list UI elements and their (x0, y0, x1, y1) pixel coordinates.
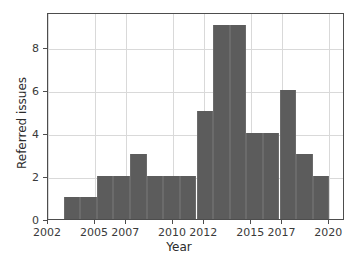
y-tick-label: 8 (17, 41, 39, 54)
x-tick-label: 2012 (189, 226, 217, 239)
gridline-x-2002 (48, 14, 49, 219)
histogram-bar (163, 176, 180, 219)
gridline-y-4 (48, 135, 343, 136)
x-tick-mark (250, 220, 251, 224)
histogram-bar (113, 176, 130, 219)
x-tick-label: 2005 (80, 226, 108, 239)
histogram-bar (313, 176, 330, 219)
x-tick-mark (328, 220, 329, 224)
histogram-bar (280, 90, 297, 219)
histogram-bar (64, 197, 81, 219)
histogram-bar (296, 154, 313, 219)
gridline-y-8 (48, 49, 343, 50)
histogram-bar (213, 25, 230, 219)
x-tick-mark (203, 220, 204, 224)
gridline-x-2020 (329, 14, 330, 219)
y-tick-label: 0 (17, 214, 39, 227)
histogram-bar (180, 176, 197, 219)
x-tick-label: 2010 (158, 226, 186, 239)
y-tick-mark (43, 48, 47, 49)
histogram-bar (80, 197, 97, 219)
x-tick-mark (94, 220, 95, 224)
y-tick-mark (43, 134, 47, 135)
x-tick-label: 2017 (267, 226, 295, 239)
x-tick-mark (125, 220, 126, 224)
x-tick-mark (281, 220, 282, 224)
histogram-bar (263, 133, 280, 219)
y-tick-mark (43, 220, 47, 221)
x-tick-mark (47, 220, 48, 224)
x-tick-label: 2002 (33, 226, 61, 239)
histogram-bar (130, 154, 147, 219)
histogram-figure: 20022005200720102012201520172020 02468 Y… (0, 0, 358, 261)
x-axis-label: Year (0, 240, 358, 254)
histogram-bar (147, 176, 164, 219)
y-tick-mark (43, 91, 47, 92)
histogram-bar (246, 133, 263, 219)
histogram-bar (97, 176, 114, 219)
y-tick-mark (43, 177, 47, 178)
histogram-bar (197, 111, 214, 219)
histogram-bar (230, 25, 247, 219)
x-tick-mark (172, 220, 173, 224)
y-axis-label: Referred issues (15, 63, 29, 183)
gridline-x-2005 (95, 14, 96, 219)
x-tick-label: 2020 (314, 226, 342, 239)
x-tick-label: 2007 (111, 226, 139, 239)
x-tick-label: 2015 (236, 226, 264, 239)
plot-area (47, 13, 344, 220)
gridline-y-6 (48, 92, 343, 93)
